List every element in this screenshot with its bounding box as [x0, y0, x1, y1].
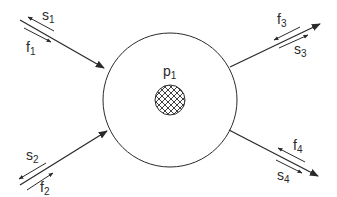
s2-label: s2 [26, 147, 39, 165]
port-diagram: p1 s1 f1 s2 f2 f3 s3 f4 s4 [0, 0, 337, 197]
f3-label: f3 [277, 11, 287, 29]
s4-label: s4 [277, 167, 290, 185]
flow-right-bottom: f4 s4 [229, 130, 318, 185]
center-label: p1 [163, 63, 177, 81]
f1-label: f1 [26, 39, 36, 57]
flow-left-top: s1 f1 [20, 7, 104, 68]
flow-left-bottom: s2 f2 [19, 131, 107, 197]
flow-right-top: f3 s3 [230, 11, 320, 67]
f2-label: f2 [40, 179, 50, 197]
s3-label: s3 [294, 41, 307, 59]
hatched-core [155, 85, 185, 115]
f4-label: f4 [293, 137, 303, 155]
s1-label: s1 [42, 7, 55, 25]
